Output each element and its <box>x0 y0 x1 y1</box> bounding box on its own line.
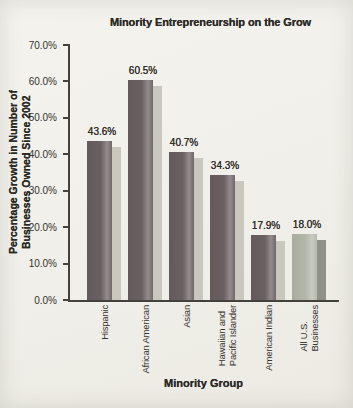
bar-shadow <box>276 241 285 300</box>
bar-all-u-s-businesses <box>292 234 317 300</box>
y-tick-mark <box>63 44 70 46</box>
bar-value-label: 17.9% <box>252 220 280 231</box>
y-tick-mark <box>63 117 70 119</box>
bar-hispanic <box>87 141 112 300</box>
bar-shadow <box>317 240 326 300</box>
bar-value-label: 60.5% <box>129 65 157 76</box>
y-tick-label: 0.0% <box>7 294 57 307</box>
x-category-label-all-u-s-businesses: All U.S.Businesses <box>298 305 320 352</box>
bar-shadow <box>194 158 203 300</box>
bar-value-label: 34.3% <box>211 160 239 171</box>
y-tick-mark <box>63 190 70 192</box>
y-tick-label: 30.0% <box>7 184 57 197</box>
y-tick-mark <box>63 263 70 265</box>
x-category-label-african-american: African American <box>140 305 151 374</box>
y-tick-mark <box>63 226 70 228</box>
bar-shadow <box>235 181 244 300</box>
bar-shadow <box>153 86 162 300</box>
x-category-label-american-indian: American Indian <box>263 305 274 371</box>
bar-chart-figure: Minority Entrepreneurship on the Grow Pe… <box>0 0 353 408</box>
bar-asian <box>169 152 194 300</box>
y-tick-mark <box>63 80 70 82</box>
chart-title: Minority Entrepreneurship on the Grow <box>70 16 351 28</box>
y-tick-label: 70.0% <box>7 39 57 52</box>
x-axis-title: Minority Group <box>70 377 337 389</box>
bar-value-label: 40.7% <box>170 137 198 148</box>
bar-african-american <box>128 80 153 300</box>
bar-shadow <box>112 147 121 300</box>
y-tick-label: 20.0% <box>7 221 57 234</box>
y-tick-mark <box>63 299 70 301</box>
x-category-label-asian: Asian <box>181 305 192 328</box>
y-tick-label: 10.0% <box>7 257 57 270</box>
y-tick-label: 50.0% <box>7 111 57 124</box>
y-tick-label: 40.0% <box>7 148 57 161</box>
x-category-label-hispanic: Hispanic <box>99 305 110 340</box>
bar-american-indian <box>251 235 276 300</box>
plot-area: 43.6%60.5%40.7%34.3%17.9%18.0% <box>70 45 337 300</box>
bar-hawaiian-and-pacific-islander <box>210 175 235 300</box>
y-tick-mark <box>63 153 70 155</box>
y-tick-label: 60.0% <box>7 75 57 88</box>
x-category-label-hawaiian-and-pacific-islander: Hawaiian andPacific Islander <box>216 305 238 366</box>
x-axis-line <box>68 300 339 302</box>
bar-value-label: 18.0% <box>293 219 321 230</box>
bar-value-label: 43.6% <box>88 126 116 137</box>
